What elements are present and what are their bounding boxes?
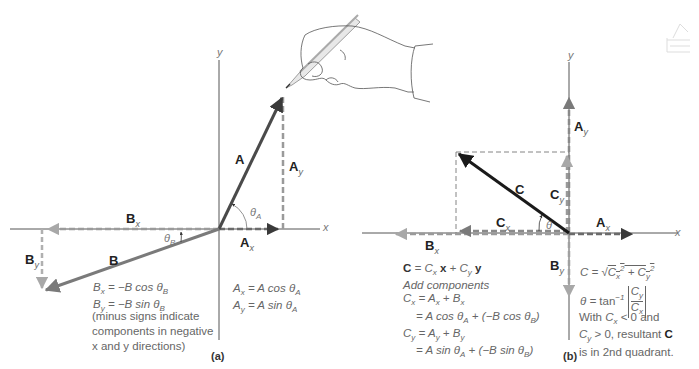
theta-arc-b: [539, 215, 542, 231]
conclusion-line: With Cx < 0 and: [579, 311, 674, 328]
add-components-heading: Add components: [403, 279, 540, 292]
vector-ax-label-b: Ax: [596, 216, 610, 233]
a-component-equations: Ax = A cos θA Ay = A sin θA: [233, 282, 300, 317]
vector-by-label-b: By: [550, 259, 564, 276]
minus-sign-note: (minus signs indicate components in nega…: [92, 309, 213, 354]
vector-cx-label: Cx: [496, 216, 510, 233]
cy-expansion: = A sin θA + (−B sin θB): [403, 344, 540, 361]
cx-sum: Cx = Ax + Bx: [403, 292, 540, 309]
x-axis-label-a: x: [323, 222, 329, 233]
conclusion-line: is in 2nd quadrant.: [579, 346, 674, 359]
component-sum-equations: C = Cx x + Cy y Add components Cx = Ax +…: [403, 262, 540, 361]
y-axis-label-b: y: [568, 50, 574, 61]
equation-ax: Ax = A cos θA: [233, 282, 300, 299]
vector-addition-figure: y x A Ay Ax Bx By B θA θB Bx = −B cos θB…: [0, 0, 699, 369]
theta-a-label: θA: [250, 207, 261, 221]
vector-a-label: A: [235, 153, 244, 166]
vector-b-label: B: [109, 254, 118, 267]
theta-label-b: θ: [546, 220, 552, 231]
equation-bx: Bx = −B cos θB: [93, 281, 168, 298]
vector-c-label: C: [515, 183, 524, 196]
vector-ay-label-b: Ay: [574, 120, 588, 137]
note-line: components in negative: [92, 324, 213, 339]
x-axis-label-b: x: [675, 227, 681, 238]
vector-by-label-a: By: [25, 253, 39, 270]
vector-bx-label-a: Bx: [126, 212, 140, 229]
page-corner-icon: [667, 24, 690, 52]
hand-pencil-icon: [286, 15, 433, 102]
theta-a-arc: [232, 204, 247, 229]
magnitude-equation: C = √Cx2 + Cy2: [580, 262, 654, 283]
cx-expansion: = A cos θA + (−B cos θB): [403, 310, 540, 327]
theta-b-label: θB: [164, 233, 175, 247]
equation-ay: Ay = A sin θA: [233, 299, 300, 316]
panel-b-label: (b): [563, 351, 577, 362]
panel-a-graphics: [10, 15, 433, 340]
vector-cy-label: Cy: [550, 188, 564, 205]
quadrant-conclusion: With Cx < 0 and Cy > 0, resultant C is i…: [579, 311, 674, 359]
vector-ay-label-a: Ay: [289, 160, 303, 177]
cy-sum: Cy = Ay + By: [403, 327, 540, 344]
vector-bx-label-b: Bx: [425, 239, 439, 256]
conclusion-line: Cy > 0, resultant C: [579, 328, 674, 345]
note-line: x and y directions): [92, 339, 213, 354]
vector-ax-label-a: Ax: [240, 236, 254, 253]
y-axis-label-a: y: [217, 47, 223, 58]
note-line: (minus signs indicate: [92, 309, 213, 324]
resultant-equation: C = Cx x + Cy y: [403, 262, 540, 279]
panel-a-label: (a): [211, 351, 224, 362]
